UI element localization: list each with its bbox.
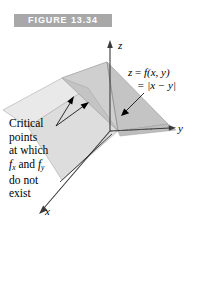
equation-line-2: = |x − y| — [128, 79, 176, 92]
figure-container: FIGURE 13.34 — [0, 0, 208, 293]
callout-fy-subscript: y — [41, 162, 44, 171]
equation-callout: z = f(x, y) = |x − y| — [128, 66, 176, 92]
callout-line-5: do not — [9, 174, 48, 188]
callout-line-4: fx and fy — [9, 158, 48, 174]
critical-points-callout: Critical points at which fx and fy do no… — [9, 117, 48, 201]
callout-line-3: at which — [9, 144, 48, 158]
callout-and-word: and — [16, 158, 38, 170]
callout-line-2: points — [9, 131, 48, 145]
x-axis-label: x — [45, 205, 50, 217]
z-axis-arrowhead — [107, 40, 113, 48]
z-axis-label: z — [118, 39, 122, 51]
y-axis-label: y — [178, 122, 183, 134]
equation-line-1: z = f(x, y) — [128, 66, 176, 79]
equation-rhs: f(x, y) — [144, 66, 170, 78]
callout-line-6: exist — [9, 187, 48, 201]
callout-line-1: Critical — [9, 117, 48, 131]
equation-equals: = — [132, 66, 144, 78]
